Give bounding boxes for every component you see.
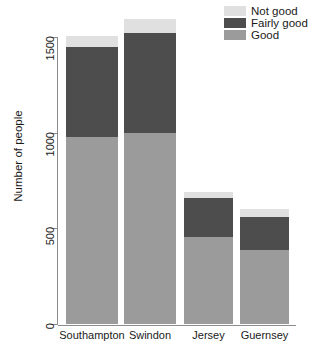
bar-segment[interactable] [124,19,176,33]
bar-segment[interactable] [240,250,289,324]
legend-swatch [224,18,246,28]
bar-segment[interactable] [66,137,118,324]
bar-stack[interactable] [124,19,176,324]
legend-item[interactable]: Not good [224,5,308,17]
legend-swatch [224,30,246,40]
bar-stack[interactable] [240,209,289,324]
legend: Not goodFairly goodGood [224,5,308,41]
bar-segment[interactable] [240,209,289,217]
bar-segment[interactable] [240,217,289,250]
legend-item[interactable]: Good [224,29,308,41]
bar-segment[interactable] [184,237,233,324]
bar-stack[interactable] [184,192,233,324]
bar-segment[interactable] [66,47,118,137]
bar-segment[interactable] [184,192,233,198]
bar-segment[interactable] [124,133,176,324]
bar-segment[interactable] [184,198,233,237]
bar-stack[interactable] [66,36,118,324]
legend-label: Good [251,29,279,41]
legend-item[interactable]: Fairly good [224,17,308,29]
plot-area [0,0,328,354]
bar-segment[interactable] [66,36,118,47]
legend-label: Not good [251,5,298,17]
legend-label: Fairly good [251,17,308,29]
bar-segment[interactable] [124,33,176,132]
stacked-bar-chart: Number of people 050010001500 Southampto… [0,0,328,354]
legend-swatch [224,6,246,16]
